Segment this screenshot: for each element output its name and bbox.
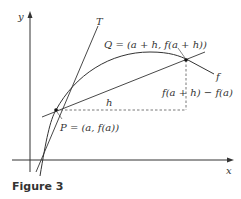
- secant-line: [42, 52, 205, 117]
- run-label: h: [106, 97, 112, 108]
- curve-label: f: [215, 71, 222, 82]
- y-axis-label: y: [17, 11, 24, 22]
- x-axis-arrow-icon: [227, 158, 234, 163]
- point-q: [184, 58, 188, 62]
- curve-f: [40, 52, 214, 176]
- point-q-label: Q = (a + h, f(a + h)): [104, 39, 207, 50]
- y-axis-arrow-icon: [28, 11, 33, 18]
- x-axis-label: x: [226, 165, 232, 176]
- figure-caption: Figure 3: [12, 180, 63, 193]
- point-p-label: P = (a, f(a)): [59, 122, 119, 133]
- rise-label: f(a + h) − f(a): [161, 87, 233, 98]
- tangent-label: T: [96, 16, 104, 27]
- secant-tangent-diagram: y x T f Q = (a + h, f(a + h)) P = (a, f(…: [0, 0, 241, 199]
- point-p: [54, 108, 58, 112]
- tangent-line: [36, 26, 98, 172]
